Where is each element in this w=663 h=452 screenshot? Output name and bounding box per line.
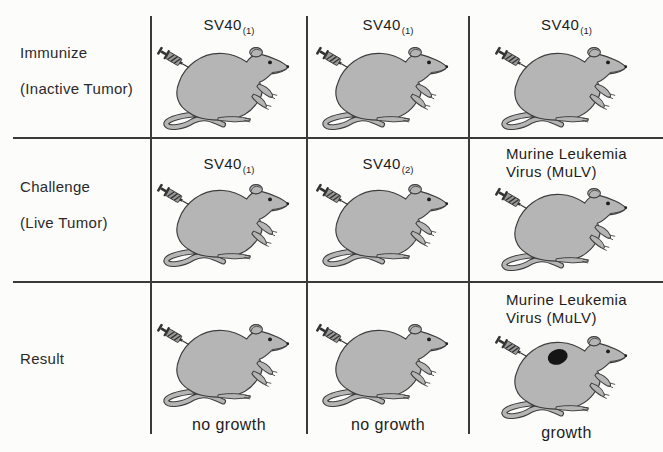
row-label-line: Immunize [20, 44, 87, 62]
row-label-challenge: Challenge (Live Tumor) [0, 139, 150, 281]
agent-label: SV40(2) [363, 155, 414, 175]
mouse-with-syringe-icon [495, 40, 639, 133]
mouse-with-syringe-icon [157, 40, 301, 133]
agent-label: SV40(1) [541, 16, 592, 36]
mouse-with-syringe-icon [157, 317, 301, 410]
cell-immunize-3: SV40(1) [470, 0, 663, 137]
agent-subscript: (1) [402, 25, 414, 36]
cell-immunize-1: SV40(1) [152, 0, 306, 137]
cell-challenge-1: SV40(1) [152, 139, 306, 281]
agent-label: Murine Leukemia Virus (MuLV) [506, 291, 627, 327]
mouse-with-syringe-icon [495, 181, 639, 274]
cell-immunize-2: SV40(1) [308, 0, 468, 137]
tumor-immunization-diagram: Immunize (Inactive Tumor) Challenge (Liv… [0, 0, 663, 452]
result-label: no growth [192, 416, 266, 434]
mouse-with-syringe-icon [157, 177, 301, 270]
row-label-line: (Inactive Tumor) [20, 80, 133, 98]
cell-result-2: no growth [308, 283, 468, 452]
row-label-result: Result [0, 283, 150, 452]
agent-label: Murine Leukemia Virus (MuLV) [506, 145, 627, 181]
cell-result-3: Murine Leukemia Virus (MuLV) growth [470, 283, 663, 452]
agent-subscript: (1) [243, 25, 255, 36]
agent-label: SV40(1) [363, 16, 414, 36]
row-label-immunize: Immunize (Inactive Tumor) [0, 0, 150, 137]
result-label: growth [541, 424, 591, 442]
mouse-with-syringe-icon [316, 177, 460, 270]
row-label-line: Challenge [20, 178, 90, 196]
cell-challenge-3: Murine Leukemia Virus (MuLV) [470, 139, 663, 281]
cell-challenge-2: SV40(2) [308, 139, 468, 281]
agent-label: SV40(1) [204, 155, 255, 175]
agent-label: SV40(1) [204, 16, 255, 36]
row-label-line: Result [20, 350, 64, 368]
agent-subscript: (1) [243, 164, 255, 175]
mouse-with-syringe-icon [316, 317, 460, 410]
result-label: no growth [351, 416, 425, 434]
mouse-with-syringe-icon [316, 40, 460, 133]
cell-result-1: no growth [152, 283, 306, 452]
mouse-with-tumor-icon [495, 329, 639, 422]
row-label-line: (Live Tumor) [20, 214, 108, 232]
agent-subscript: (1) [580, 25, 592, 36]
agent-subscript: (2) [402, 164, 414, 175]
